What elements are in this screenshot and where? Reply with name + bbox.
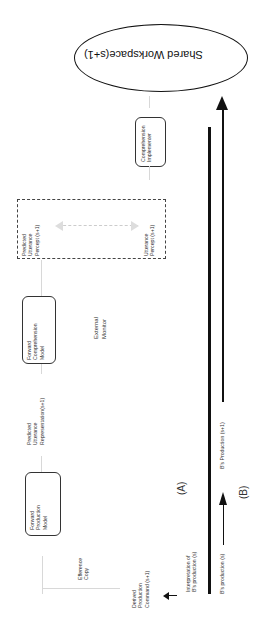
production-to-representation-arrow [41,456,42,472]
panel-b-label: (B) [238,486,250,499]
interpretation-label: Interpretation of B's production (s) [185,552,198,592]
external-monitor-label: External Monitor [92,317,108,339]
b-production-s-line [223,505,224,545]
arrowhead-right-icon [131,221,139,231]
shared-workspace-label: Shared Workspace(s+1) [84,49,203,61]
arrowhead-up-icon [216,96,228,110]
arrowhead-left-icon [55,221,63,231]
efference-copy-connector [42,588,120,589]
panel-a-label: (A) [176,482,188,495]
production-timeline-line [208,127,211,594]
b-production-s1-label: B's Production (s+1) [219,422,225,469]
implementer-to-percept-arrow [149,166,150,180]
arrowhead-icon [163,592,169,600]
comprehension-implementer-label: Comprehension Implementer [140,125,153,162]
workspace-to-implementer-arrow [149,96,150,108]
b-production-s-label: B's production (s) [219,554,225,594]
predicted-utterance-representation-label: Predicted Utterance Representation(s+1) [26,398,45,445]
efference-copy-label: Efference Copy [77,558,90,580]
arrowhead-up-icon [219,492,227,505]
derived-production-command-label: Derived Production Command (s+1) [131,571,150,608]
b-production-s1-line [222,110,224,402]
utterance-percept-label: Utterance Percept (s+1) [143,225,156,256]
forward-comprehension-model-label: Forward Comprehension Model [26,323,45,360]
comparison-double-arrow [58,225,138,227]
forward-production-model-label: Forward Production Model [29,505,48,530]
predicted-utterance-percept-label: Predicted Utterance Percept (s+1) [21,225,40,256]
representation-to-comprehension-arrow [41,364,42,374]
